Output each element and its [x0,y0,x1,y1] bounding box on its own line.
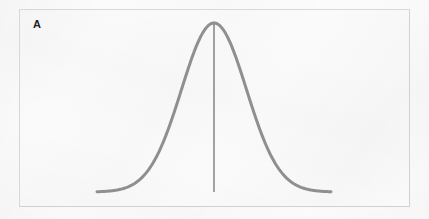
figure-panel: A [19,9,410,207]
panel-label-a: A [33,19,41,30]
figure-container: A [0,0,429,219]
normal-distribution-plot [20,10,411,208]
